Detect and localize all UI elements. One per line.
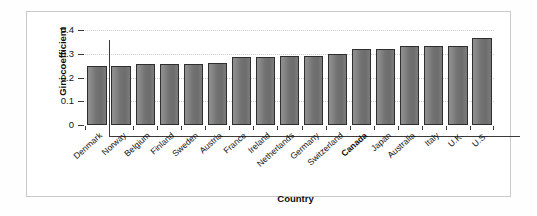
x-tick-mark: [205, 126, 206, 130]
y-tick-label: 0.4: [50, 25, 74, 35]
x-tick-mark: [229, 126, 230, 130]
bar: [136, 64, 155, 125]
chart-figure: Gini coefficient 00.10.20.30.4 DenmarkNo…: [0, 0, 537, 216]
bar: [304, 56, 323, 125]
x-tick-mark: [326, 126, 327, 130]
bar: [280, 56, 299, 125]
x-tick-mark: [374, 126, 375, 130]
x-tick-mark: [398, 126, 399, 130]
x-tick-mark: [470, 126, 471, 130]
bar: [232, 57, 251, 125]
y-tick-mark: [78, 125, 84, 126]
x-tick-mark: [109, 126, 110, 130]
bar: [208, 63, 227, 125]
x-axis-title: Country: [27, 193, 537, 204]
bar: [352, 49, 371, 125]
gridline: [85, 30, 494, 32]
bar: [184, 64, 203, 125]
bar: [472, 38, 491, 125]
x-tick-mark: [181, 126, 182, 130]
x-tick-mark: [133, 126, 134, 130]
x-tick-mark: [277, 126, 278, 130]
bar: [87, 66, 106, 125]
y-tick-label: 0.1: [50, 96, 74, 106]
x-tick-mark: [157, 126, 158, 130]
bar: [424, 46, 443, 125]
bar: [256, 57, 275, 125]
y-tick-label: 0.2: [50, 73, 74, 83]
bar: [448, 46, 467, 125]
x-tick-mark: [422, 126, 423, 130]
bar: [400, 46, 419, 125]
y-axis-line: [109, 40, 110, 137]
y-tick-mark: [78, 54, 84, 55]
y-tick-label: 0.3: [50, 49, 74, 59]
chart-frame: Gini coefficient 00.10.20.30.4 DenmarkNo…: [26, 11, 511, 197]
x-tick-mark: [302, 126, 303, 130]
bar: [376, 49, 395, 125]
x-tick-mark: [85, 126, 86, 130]
bar: [160, 64, 179, 125]
y-tick-mark: [78, 101, 84, 102]
y-tick-mark: [78, 30, 84, 31]
bar: [328, 54, 347, 125]
y-tick-label: 0: [50, 120, 74, 130]
y-tick-mark: [78, 78, 84, 79]
x-tick-mark: [446, 126, 447, 130]
x-tick-mark: [253, 126, 254, 130]
x-tick-mark: [350, 126, 351, 130]
bar: [111, 66, 130, 125]
x-tick-mark: [493, 126, 494, 130]
